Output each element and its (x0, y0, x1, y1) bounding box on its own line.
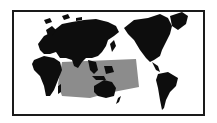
greenland (170, 12, 188, 30)
africa (32, 56, 62, 96)
south-america (156, 72, 178, 110)
north-america (124, 14, 172, 62)
world-map (0, 0, 217, 123)
